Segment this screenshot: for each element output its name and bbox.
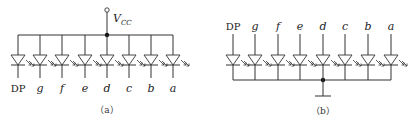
segment-label-a: a [170,82,177,95]
segment-label-c: c [342,20,348,33]
led-diode-icon [338,55,352,65]
segment-label-b: b [147,82,154,95]
led-diode-icon [248,55,262,65]
led-segment-diagrams: VCC DPgfedcba （a） DPgfedcba （b） [0,0,413,127]
led-diode-icon [226,55,240,65]
segment-label-a: a [388,20,395,33]
led-diode-icon [122,55,136,65]
vcc-terminal [105,8,109,12]
led-diode-icon [33,55,47,65]
segment-label-f: f [59,82,66,95]
segment-label-e: e [82,82,89,95]
segment-label-d: d [319,20,326,33]
panel-b-common-cathode: DPgfedcba （b） [226,20,407,116]
vcc-label: VCC [113,12,132,27]
led-diode-icon [361,55,375,65]
segment-label-c: c [126,82,132,95]
caption-a: （a） [95,105,118,115]
panel-a-common-anode: VCC DPgfedcba （a） [11,8,189,115]
caption-b: （b） [311,106,335,116]
segment-label-b: b [364,20,371,33]
led-diode-icon [316,55,330,65]
led-diode-icon [144,55,158,65]
led-diode-icon [78,55,92,65]
segment-label-f: f [275,20,282,33]
led-diode-icon [293,55,307,65]
segment-label-g: g [251,20,258,33]
led-diode-icon [55,55,69,65]
led-diode-icon [384,55,398,65]
segment-label-g: g [36,82,43,95]
segment-label-e: e [297,20,304,33]
segment-label-dp: DP [11,83,26,94]
led-diode-icon [166,55,180,65]
led-diode-icon [100,55,114,65]
led-diode-icon [271,55,285,65]
led-diode-icon [11,55,25,65]
segment-label-dp: DP [226,21,241,32]
segment-label-d: d [103,82,110,95]
